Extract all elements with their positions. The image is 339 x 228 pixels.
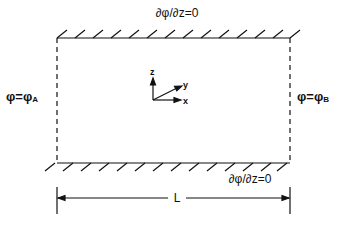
- top-wall: [57, 30, 300, 38]
- length-label: L: [174, 191, 181, 205]
- x-axis-label: x: [183, 96, 188, 106]
- left-boundary-label-sub: A: [32, 95, 38, 104]
- left-boundary-label: φ=φA: [6, 89, 38, 104]
- right-boundary-label-sub: B: [323, 95, 329, 104]
- z-axis-label: z: [150, 67, 155, 77]
- bottom-boundary-label: ∂φ/∂z=0: [229, 172, 272, 186]
- left-boundary-label-main: φ=φ: [6, 89, 32, 104]
- coordinate-axes: [151, 78, 183, 103]
- top-boundary-label: ∂φ/∂z=0: [156, 6, 199, 20]
- y-axis-label: y: [183, 80, 188, 90]
- diagram-canvas: ∂φ/∂z=0 ∂φ/∂z=0 φ=φA φ=φB z y x L: [0, 0, 339, 228]
- bottom-wall: [45, 163, 290, 171]
- right-boundary-label-main: φ=φ: [297, 89, 323, 104]
- right-boundary-label: φ=φB: [297, 89, 329, 104]
